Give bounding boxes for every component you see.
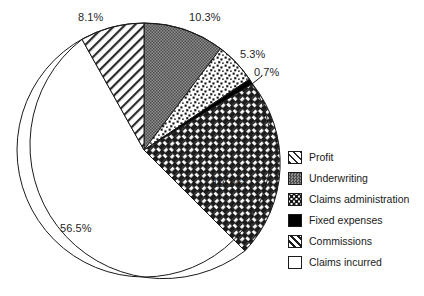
legend-label-underwriting: Underwriting bbox=[309, 173, 368, 184]
legend-label-claims-incurred: Claims incurred bbox=[309, 257, 382, 268]
chart-legend: Profit Underwriting Claims administratio… bbox=[288, 147, 420, 273]
legend-item-underwriting[interactable]: Underwriting bbox=[288, 168, 420, 189]
legend-swatch-claims-administration-icon bbox=[288, 193, 302, 206]
legend-label-profit: Profit bbox=[309, 152, 334, 163]
legend-swatch-fixed-expenses-icon bbox=[288, 214, 302, 227]
legend-item-claims-administration[interactable]: Claims administration bbox=[288, 189, 420, 210]
pie-label-claims-incurred: 56.5% bbox=[60, 222, 92, 234]
legend-item-commissions[interactable]: Commissions bbox=[288, 231, 420, 252]
legend-label-commissions: Commissions bbox=[309, 236, 372, 247]
legend-swatch-underwriting-icon bbox=[288, 172, 302, 185]
legend-label-fixed-expenses: Fixed expenses bbox=[309, 215, 383, 226]
legend-swatch-claims-incurred-icon bbox=[288, 256, 302, 269]
pie-label-fixed-expenses: 0.7% bbox=[254, 66, 279, 78]
legend-item-claims-incurred[interactable]: Claims incurred bbox=[288, 252, 420, 273]
pie-label-commissions: 19.1% bbox=[212, 177, 244, 189]
legend-swatch-commissions-icon bbox=[288, 235, 302, 248]
pie-label-profit: 8.1% bbox=[78, 11, 103, 23]
pie-label-claims-administration: 5.3% bbox=[240, 48, 265, 60]
legend-item-profit[interactable]: Profit bbox=[288, 147, 420, 168]
legend-label-claims-administration: Claims administration bbox=[309, 194, 409, 205]
pie-label-underwriting: 10.3% bbox=[189, 11, 221, 23]
legend-swatch-profit-icon bbox=[288, 151, 302, 164]
legend-item-fixed-expenses[interactable]: Fixed expenses bbox=[288, 210, 420, 231]
pie-chart-figure: 8.1% 10.3% 5.3% 0.7% 19.1% 56.5% Profit … bbox=[0, 0, 424, 296]
